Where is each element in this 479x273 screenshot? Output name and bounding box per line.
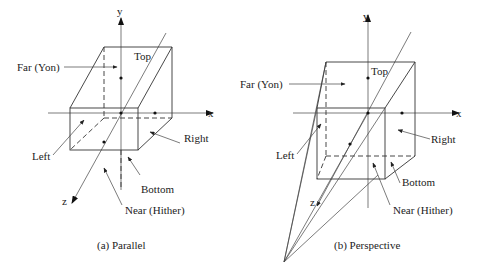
- right-label: Right: [431, 133, 455, 145]
- right-label: Right: [184, 132, 208, 144]
- z-axis-label: z: [310, 196, 315, 208]
- bottom-label: Bottom: [141, 183, 174, 195]
- far-label: Far (Yon): [17, 61, 60, 74]
- near-label: Near (Hither): [393, 204, 453, 217]
- view-volume-diagram: y x z Far (Yon) Top Right Left Bottom Ne…: [0, 0, 479, 273]
- parallel-panel: y x z Far (Yon) Top Right Left Bottom Ne…: [17, 5, 214, 252]
- y-axis-label: y: [117, 5, 123, 17]
- z-axis-label: z: [62, 195, 67, 207]
- y-axis-label: y: [363, 10, 369, 22]
- z-axis: [72, 33, 166, 203]
- far-label: Far (Yon): [240, 78, 283, 91]
- x-axis-label: x: [456, 107, 462, 119]
- caption-parallel: (a) Parallel: [97, 239, 146, 252]
- top-label: Top: [134, 50, 151, 62]
- z-axis: [317, 32, 411, 206]
- caption-perspective: (b) Perspective: [334, 239, 400, 252]
- perspective-panel: y x z Far (Yon) Top Right Left Bottom Ne…: [240, 10, 462, 262]
- bottom-label: Bottom: [402, 176, 435, 188]
- x-axis-label: x: [208, 107, 214, 119]
- top-label: Top: [371, 65, 388, 77]
- left-label: Left: [276, 149, 294, 161]
- near-label: Near (Hither): [125, 204, 185, 217]
- left-label: Left: [32, 150, 50, 162]
